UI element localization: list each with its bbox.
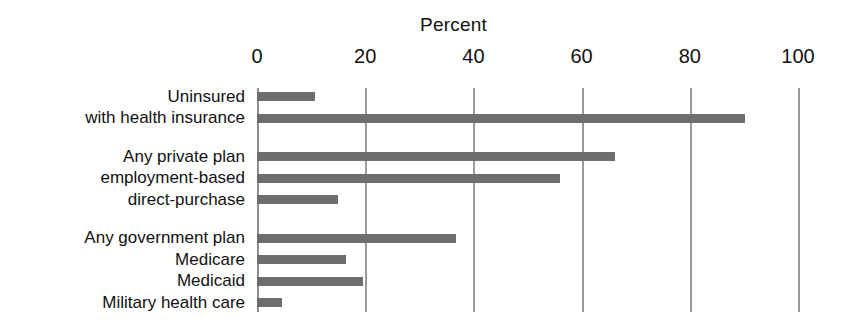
x-axis-tick-labels: 020406080100 bbox=[0, 44, 849, 72]
category-label: employment-based bbox=[0, 168, 249, 187]
plot-area bbox=[257, 88, 798, 312]
chart-title: Percent bbox=[29, 14, 849, 36]
bar bbox=[257, 114, 745, 123]
bar bbox=[257, 92, 315, 101]
bar bbox=[257, 234, 456, 243]
category-label: Military health care bbox=[0, 293, 249, 312]
bar bbox=[257, 152, 615, 161]
bar-chart: Percent 020406080100 Uninsuredwith healt… bbox=[0, 0, 849, 329]
x-tick-label-60: 60 bbox=[570, 44, 592, 68]
bar bbox=[257, 277, 363, 286]
category-label: Any private plan bbox=[0, 147, 249, 166]
category-label: Medicare bbox=[0, 250, 249, 269]
bar bbox=[257, 174, 560, 183]
category-label: Medicaid bbox=[0, 271, 249, 290]
category-label: Uninsured bbox=[0, 87, 249, 106]
category-axis-labels: Uninsuredwith health insuranceAny privat… bbox=[0, 88, 249, 312]
category-label: Any government plan bbox=[0, 228, 249, 247]
x-tick-label-100: 100 bbox=[781, 44, 814, 68]
x-tick-label-0: 0 bbox=[251, 44, 262, 68]
bar bbox=[257, 255, 346, 264]
bar bbox=[257, 195, 338, 204]
x-tick-label-20: 20 bbox=[354, 44, 376, 68]
bar bbox=[257, 298, 282, 307]
x-tick-label-80: 80 bbox=[679, 44, 701, 68]
x-tick-label-40: 40 bbox=[462, 44, 484, 68]
category-label: with health insurance bbox=[0, 108, 249, 127]
category-label: direct-purchase bbox=[0, 190, 249, 209]
gridline-100 bbox=[798, 88, 800, 312]
